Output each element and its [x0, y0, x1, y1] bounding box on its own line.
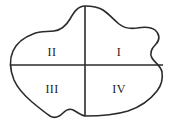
quadrant-label-iii: III — [45, 83, 58, 95]
blob-outline-path — [10, 6, 162, 117]
quadrant-label-ii: II — [48, 46, 57, 58]
quadrant-label-iv: IV — [112, 83, 125, 95]
figure-container: I II III IV — [0, 0, 176, 137]
quadrant-label-i: I — [117, 46, 121, 58]
blob-diagram-svg — [0, 0, 176, 137]
